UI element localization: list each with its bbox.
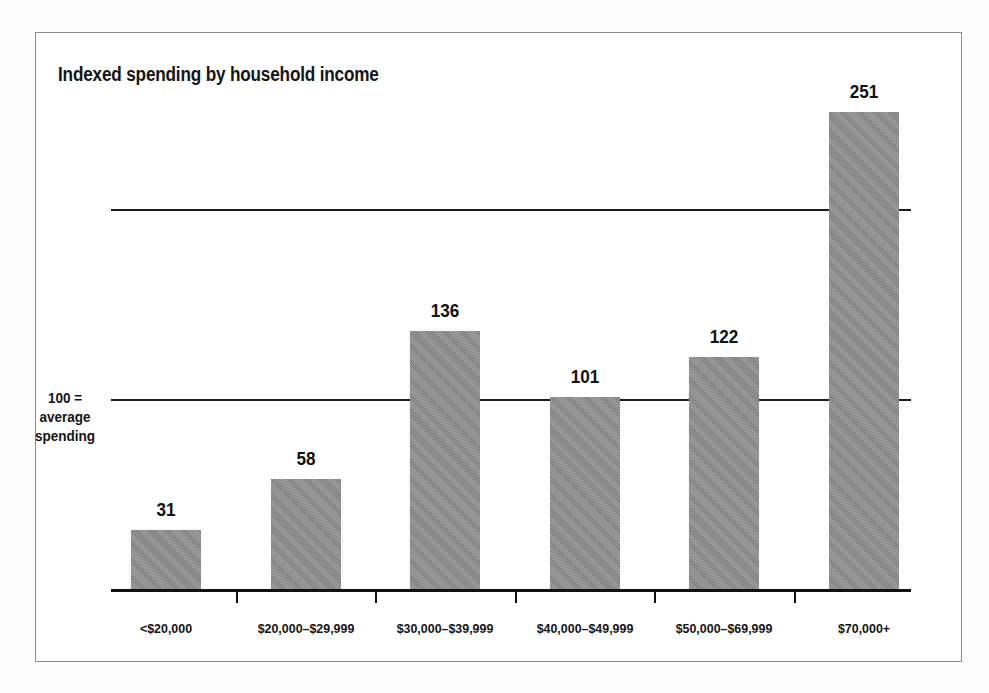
bar <box>550 397 620 589</box>
gridline-100 <box>111 399 911 401</box>
y-axis-annotation: 100 =averagespending <box>26 388 103 446</box>
bar <box>131 530 201 589</box>
y-axis-annotation-line: average <box>26 407 103 426</box>
bar <box>689 357 759 589</box>
bar <box>829 112 899 589</box>
axis-tick <box>794 591 796 603</box>
axis-tick <box>375 591 377 603</box>
axis-tick <box>654 591 656 603</box>
category-label: $40,000–$49,999 <box>520 621 649 636</box>
axis-tick <box>515 591 517 603</box>
bar-value-label: 122 <box>670 326 778 348</box>
category-label: $50,000–$69,999 <box>660 621 789 636</box>
y-axis-annotation-line: spending <box>26 426 103 445</box>
chart-frame: Indexed spending by household income 31<… <box>35 32 962 662</box>
category-label: <$20,000 <box>102 621 231 636</box>
figure: Indexed spending by household income 31<… <box>0 0 989 693</box>
bar-value-label: 101 <box>531 366 639 388</box>
bar-value-label: 251 <box>810 81 918 103</box>
bar <box>271 479 341 589</box>
bar-value-label: 58 <box>252 448 360 470</box>
y-axis-annotation-line: 100 = <box>26 388 103 407</box>
category-label: $30,000–$39,999 <box>381 621 510 636</box>
gridline-200 <box>111 209 911 211</box>
bar-value-label: 136 <box>391 300 499 322</box>
plot-area: 31<$20,00058$20,000–$29,999136$30,000–$3… <box>36 33 961 661</box>
axis-baseline <box>111 589 911 592</box>
category-label: $20,000–$29,999 <box>241 621 370 636</box>
axis-tick <box>236 591 238 603</box>
category-label: $70,000+ <box>799 621 928 636</box>
bar <box>410 331 480 589</box>
bar-value-label: 31 <box>112 499 220 521</box>
